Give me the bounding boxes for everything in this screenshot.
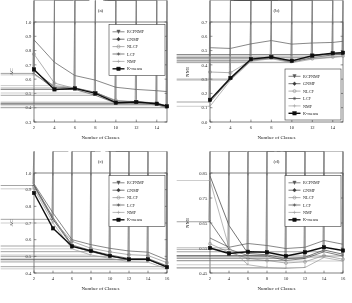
x-tick-label: 14 bbox=[154, 125, 159, 130]
legend-label: LCF bbox=[303, 203, 311, 208]
y-tick-label: 0.2 bbox=[201, 91, 207, 96]
legend-label: LCF bbox=[127, 203, 135, 208]
panel-c-chart: (c)2468101214160.40.50.60.70.80.91.0Numb… bbox=[0, 151, 176, 303]
legend-item-k-means: K-means bbox=[113, 66, 143, 71]
y-tick-label: 0.55 bbox=[199, 246, 208, 251]
legend: RCPNMFGNMFNLCFLCFNMFK-means bbox=[109, 176, 165, 227]
x-tick-label: 14 bbox=[146, 276, 151, 281]
x-tick-label: 12 bbox=[127, 276, 132, 281]
figure-panel-grid: (a)24681012140.30.40.50.60.70.80.91.0Num… bbox=[0, 0, 352, 303]
y-axis-label: NMI bbox=[185, 67, 190, 77]
panel-c: (c)2468101214160.40.50.60.70.80.91.0Numb… bbox=[0, 151, 176, 303]
y-tick-label: 0.6 bbox=[25, 77, 31, 82]
y-tick-label: 0.9 bbox=[25, 34, 31, 39]
legend-label: NMF bbox=[303, 210, 313, 215]
panel-title: (b) bbox=[274, 8, 280, 13]
y-tick-label: 0.0 bbox=[201, 120, 207, 125]
legend-label: GNMF bbox=[127, 188, 140, 193]
y-tick-label: 0.7 bbox=[201, 20, 207, 25]
legend-label: K-means bbox=[127, 217, 142, 222]
y-tick-label: 0.3 bbox=[25, 120, 31, 125]
y-tick-label: 0.75 bbox=[199, 196, 208, 201]
x-tick-label: 14 bbox=[322, 276, 327, 281]
x-axis-label: Number of Classes bbox=[257, 135, 295, 140]
y-tick-label: 0.6 bbox=[25, 237, 31, 242]
legend-label: NMF bbox=[303, 104, 313, 109]
y-tick-label: 1.0 bbox=[25, 20, 31, 25]
legend: RCPNMFGNMFNLCFLCFNMFK-means bbox=[285, 69, 341, 120]
y-tick-label: 0.4 bbox=[201, 63, 207, 68]
legend: RCPNMFGNMFNLCFLCFNMFK-means bbox=[109, 25, 165, 76]
panel-title: (a) bbox=[98, 8, 104, 13]
x-tick-label: 10 bbox=[108, 276, 113, 281]
x-tick-label: 16 bbox=[341, 276, 346, 281]
legend-label: RCPNMF bbox=[127, 29, 145, 34]
legend-item-k-means: K-means bbox=[113, 217, 143, 222]
legend-label: K-means bbox=[303, 217, 318, 222]
legend-label: RCPNMF bbox=[303, 180, 321, 185]
x-tick-label: 12 bbox=[134, 125, 139, 130]
y-tick-label: 0.8 bbox=[25, 48, 31, 53]
legend-label: RCPNMF bbox=[303, 74, 321, 79]
x-tick-label: 10 bbox=[284, 276, 289, 281]
x-axis-label: Number of Classes bbox=[257, 286, 295, 291]
legend-item-k-means: K-means bbox=[289, 217, 319, 222]
x-axis-label: Number of Classes bbox=[81, 135, 119, 140]
panel-d-chart: (d)2468101214160.450.550.650.750.85Numbe… bbox=[176, 151, 352, 303]
panel-a-chart: (a)24681012140.30.40.50.60.70.80.91.0Num… bbox=[0, 0, 176, 152]
x-tick-label: 12 bbox=[310, 125, 315, 130]
legend-label: NLCF bbox=[127, 195, 138, 200]
legend: RCPNMFGNMFNLCFLCFNMFK-means bbox=[285, 176, 341, 227]
x-tick-label: 16 bbox=[165, 276, 170, 281]
x-tick-label: 10 bbox=[114, 125, 119, 130]
legend-label: LCF bbox=[127, 52, 135, 57]
x-tick-label: 14 bbox=[330, 125, 335, 130]
legend-label: GNMF bbox=[127, 37, 140, 42]
x-tick-label: 12 bbox=[303, 276, 308, 281]
panel-b: (b)24681012140.00.10.20.30.40.50.60.7Num… bbox=[176, 0, 352, 152]
panel-title: (d) bbox=[274, 159, 280, 164]
legend-label: LCF bbox=[303, 96, 311, 101]
y-tick-label: 0.4 bbox=[25, 271, 31, 276]
y-tick-label: 1.0 bbox=[25, 171, 31, 176]
legend-label: NLCF bbox=[127, 44, 138, 49]
y-tick-label: 0.8 bbox=[25, 204, 31, 209]
legend-label: NLCF bbox=[303, 195, 314, 200]
panel-title: (c) bbox=[98, 159, 104, 164]
legend-item-k-means: K-means bbox=[289, 111, 319, 116]
y-axis-label: AC bbox=[9, 68, 14, 76]
x-tick-label: 10 bbox=[290, 125, 295, 130]
legend-label: RCPNMF bbox=[127, 180, 145, 185]
y-tick-label: 0.5 bbox=[201, 48, 207, 53]
legend-label: NMF bbox=[127, 59, 137, 64]
y-tick-label: 0.45 bbox=[199, 271, 208, 276]
legend-label: NLCF bbox=[303, 89, 314, 94]
y-axis-label: NMI bbox=[185, 218, 190, 228]
panel-b-chart: (b)24681012140.00.10.20.30.40.50.60.7Num… bbox=[176, 0, 352, 152]
y-tick-label: 0.7 bbox=[25, 63, 31, 68]
legend-label: K-means bbox=[127, 66, 142, 71]
y-tick-label: 0.85 bbox=[199, 171, 208, 176]
legend-label: K-means bbox=[303, 111, 318, 116]
legend-label: GNMF bbox=[303, 81, 316, 86]
legend-label: GNMF bbox=[303, 188, 316, 193]
y-tick-label: 0.6 bbox=[201, 34, 207, 39]
panel-d: (d)2468101214160.450.550.650.750.85Numbe… bbox=[176, 151, 352, 303]
y-tick-label: 0.9 bbox=[25, 187, 31, 192]
y-tick-label: 0.65 bbox=[199, 221, 208, 226]
panel-a: (a)24681012140.30.40.50.60.70.80.91.0Num… bbox=[0, 0, 176, 152]
y-axis-label: AC bbox=[9, 219, 14, 227]
legend-label: NMF bbox=[127, 210, 137, 215]
x-axis-label: Number of Classes bbox=[81, 286, 119, 291]
